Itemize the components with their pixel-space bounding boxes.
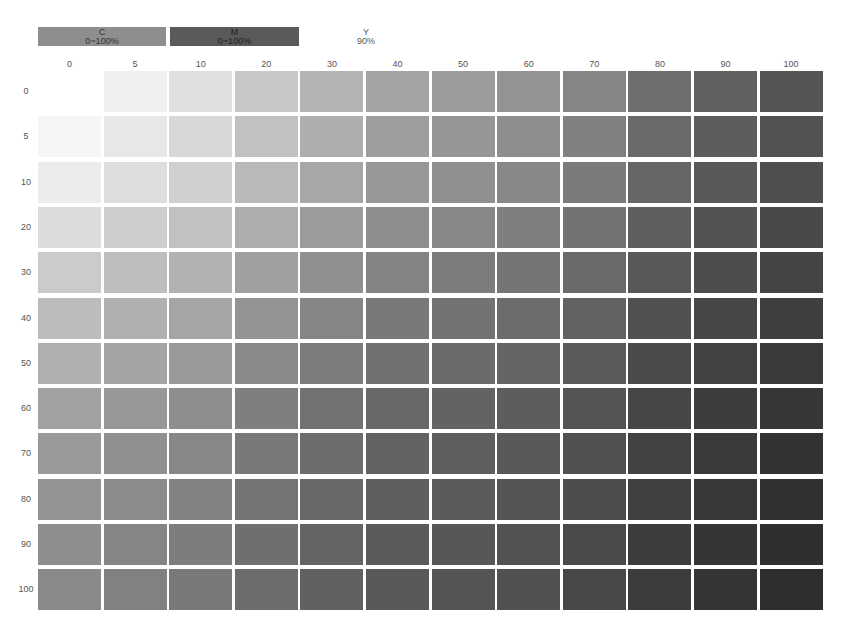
col-label-90: 90 [694, 59, 757, 69]
swatch-c30-m0 [38, 252, 101, 293]
swatch-c80-m40 [366, 479, 429, 520]
swatch-c60-m50 [432, 388, 495, 429]
legend-c: C 0~100% [38, 27, 166, 46]
swatch-c60-m60 [497, 388, 560, 429]
swatch-c20-m50 [432, 207, 495, 248]
swatch-c10-m20 [235, 162, 298, 203]
swatch-c40-m90 [694, 298, 757, 339]
col-label-0: 0 [38, 59, 101, 69]
col-label-40: 40 [366, 59, 429, 69]
swatch-c90-m60 [497, 524, 560, 565]
swatch-c50-m100 [760, 343, 823, 384]
swatch-c0-m100 [760, 71, 823, 112]
col-label-30: 30 [300, 59, 363, 69]
swatch-c10-m80 [628, 162, 691, 203]
swatch-c10-m50 [432, 162, 495, 203]
swatch-c100-m80 [628, 569, 691, 610]
swatch-c20-m5 [104, 207, 167, 248]
swatch-c80-m70 [563, 479, 626, 520]
swatch-c5-m80 [628, 116, 691, 157]
swatch-c60-m30 [300, 388, 363, 429]
swatch-c10-m0 [38, 162, 101, 203]
swatch-c0-m60 [497, 71, 560, 112]
row-label-90: 90 [14, 539, 38, 549]
swatch-c10-m10 [169, 162, 232, 203]
swatch-c5-m10 [169, 116, 232, 157]
swatch-c20-m80 [628, 207, 691, 248]
swatch-c30-m40 [366, 252, 429, 293]
swatch-c100-m5 [104, 569, 167, 610]
swatch-c60-m90 [694, 388, 757, 429]
swatch-c80-m30 [300, 479, 363, 520]
swatch-c90-m10 [169, 524, 232, 565]
row-label-100: 100 [14, 584, 38, 594]
row-label-70: 70 [14, 448, 38, 458]
swatch-c100-m0 [38, 569, 101, 610]
row-label-40: 40 [14, 313, 38, 323]
swatch-c100-m30 [300, 569, 363, 610]
legend-m: M 0~100% [170, 27, 299, 46]
swatch-c5-m40 [366, 116, 429, 157]
legend-y-value: 90% [340, 37, 392, 46]
swatch-c30-m5 [104, 252, 167, 293]
swatch-c30-m20 [235, 252, 298, 293]
swatch-c100-m70 [563, 569, 626, 610]
row-label-80: 80 [14, 494, 38, 504]
swatch-c5-m100 [760, 116, 823, 157]
swatch-c40-m50 [432, 298, 495, 339]
swatch-c20-m60 [497, 207, 560, 248]
swatch-c50-m40 [366, 343, 429, 384]
swatch-c100-m40 [366, 569, 429, 610]
swatch-c5-m90 [694, 116, 757, 157]
row-label-50: 50 [14, 358, 38, 368]
swatch-c20-m40 [366, 207, 429, 248]
swatch-c20-m0 [38, 207, 101, 248]
col-label-5: 5 [104, 59, 167, 69]
swatch-c70-m50 [432, 433, 495, 474]
swatch-c30-m60 [497, 252, 560, 293]
swatch-c80-m90 [694, 479, 757, 520]
swatch-c0-m40 [366, 71, 429, 112]
legend-c-range: 0~100% [38, 37, 166, 46]
swatch-c0-m80 [628, 71, 691, 112]
swatch-c5-m70 [563, 116, 626, 157]
swatch-c90-m5 [104, 524, 167, 565]
swatch-c90-m80 [628, 524, 691, 565]
swatch-c40-m70 [563, 298, 626, 339]
swatch-c60-m10 [169, 388, 232, 429]
swatch-c90-m40 [366, 524, 429, 565]
swatch-c10-m90 [694, 162, 757, 203]
col-label-50: 50 [432, 59, 495, 69]
swatch-c40-m60 [497, 298, 560, 339]
swatch-c40-m10 [169, 298, 232, 339]
swatch-c10-m5 [104, 162, 167, 203]
swatch-c70-m100 [760, 433, 823, 474]
swatch-c60-m70 [563, 388, 626, 429]
swatch-c50-m60 [497, 343, 560, 384]
swatch-c70-m70 [563, 433, 626, 474]
swatch-c90-m90 [694, 524, 757, 565]
swatch-c50-m10 [169, 343, 232, 384]
swatch-c50-m5 [104, 343, 167, 384]
swatch-c90-m30 [300, 524, 363, 565]
swatch-c10-m70 [563, 162, 626, 203]
swatch-c50-m30 [300, 343, 363, 384]
row-label-10: 10 [14, 177, 38, 187]
swatch-c10-m100 [760, 162, 823, 203]
swatch-c60-m5 [104, 388, 167, 429]
swatch-c100-m50 [432, 569, 495, 610]
swatch-c0-m90 [694, 71, 757, 112]
swatch-c40-m100 [760, 298, 823, 339]
swatch-c20-m10 [169, 207, 232, 248]
legend-y: Y 90% [340, 27, 392, 46]
swatch-c50-m80 [628, 343, 691, 384]
swatch-c90-m50 [432, 524, 495, 565]
swatch-c40-m20 [235, 298, 298, 339]
swatch-c80-m100 [760, 479, 823, 520]
swatch-c30-m70 [563, 252, 626, 293]
swatch-c20-m30 [300, 207, 363, 248]
swatch-c50-m20 [235, 343, 298, 384]
swatch-c30-m100 [760, 252, 823, 293]
swatch-c70-m5 [104, 433, 167, 474]
swatch-c90-m0 [38, 524, 101, 565]
